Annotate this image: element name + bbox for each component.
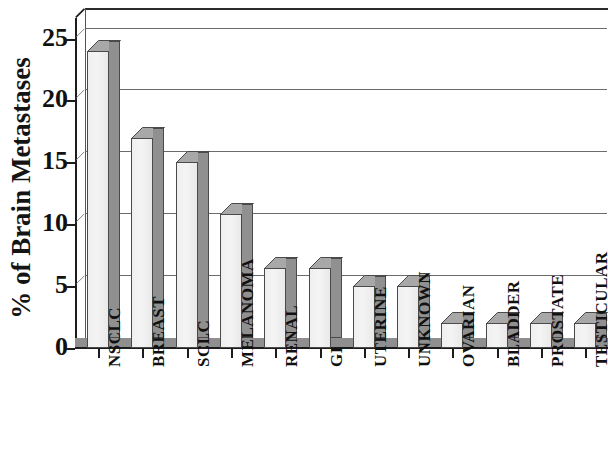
x-axis-category-label: GI <box>327 346 347 367</box>
x-axis-category-label: MELANOMA <box>238 258 258 367</box>
x-axis-category-label: BREAST <box>149 296 169 367</box>
x-axis-category-label: RENAL <box>282 305 302 367</box>
x-axis-category-label: OVARIAN <box>459 284 479 367</box>
bar-chart: % of Brain Metastases 0510152025 NSCLCBR… <box>0 0 608 473</box>
x-axis-category-label: SCLC <box>194 320 214 367</box>
x-axis-category-labels: NSCLCBREASTSCLCMELANOMARENALGIUTERINEUNK… <box>0 0 608 473</box>
x-axis-category-label: BLADDER <box>504 280 524 367</box>
x-axis-category-label: UTERINE <box>371 286 391 367</box>
x-axis-category-label: PROSTATE <box>548 274 568 367</box>
x-axis-category-label: UNKNOWN <box>415 271 435 367</box>
x-axis-category-label: TESTICULAR <box>592 251 608 367</box>
x-axis-category-label: NSCLC <box>105 307 125 367</box>
